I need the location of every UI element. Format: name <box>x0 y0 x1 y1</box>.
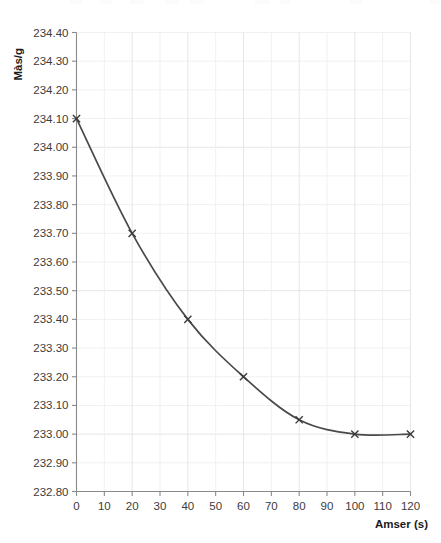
y-tick-label: 233.10 <box>33 399 68 411</box>
y-tick-label: 233.50 <box>33 285 68 297</box>
y-tick-label: 232.90 <box>33 457 68 469</box>
y-tick-label: 234.20 <box>33 84 68 96</box>
x-tick-label: 0 <box>73 500 79 512</box>
x-tick-label: 40 <box>181 500 194 512</box>
y-tick-label: 234.40 <box>33 27 68 39</box>
y-tick-label: 233.00 <box>33 428 68 440</box>
y-tick-label: 233.70 <box>33 227 68 239</box>
y-tick-label: 234.30 <box>33 55 68 67</box>
chart-container: 232.80232.90233.00233.10233.20233.30233.… <box>0 0 441 543</box>
x-tick-label: 70 <box>265 500 278 512</box>
x-tick-label: 50 <box>209 500 222 512</box>
y-tick-label: 233.20 <box>33 371 68 383</box>
y-tick-label: 233.30 <box>33 342 68 354</box>
x-tick-label: 90 <box>321 500 334 512</box>
x-tick-label: 30 <box>154 500 167 512</box>
y-tick-label: 234.10 <box>33 113 68 125</box>
line-chart: 232.80232.90233.00233.10233.20233.30233.… <box>0 0 441 543</box>
y-tick-label: 233.60 <box>33 256 68 268</box>
x-axis-title: Amser (s) <box>375 518 428 530</box>
x-tick-label: 100 <box>345 500 364 512</box>
y-tick-label: 234.00 <box>33 141 68 153</box>
x-tick-label: 10 <box>98 500 111 512</box>
y-axis-title: Màs/g <box>12 48 24 81</box>
x-tick-label: 80 <box>293 500 306 512</box>
y-tick-label: 233.40 <box>33 313 68 325</box>
y-tick-label: 233.80 <box>33 199 68 211</box>
x-tick-label: 60 <box>237 500 250 512</box>
y-tick-label: 233.90 <box>33 170 68 182</box>
x-tick-label: 110 <box>373 500 391 512</box>
x-tick-label: 20 <box>126 500 139 512</box>
y-tick-label: 232.80 <box>33 486 68 498</box>
x-tick-label: 120 <box>401 500 420 512</box>
